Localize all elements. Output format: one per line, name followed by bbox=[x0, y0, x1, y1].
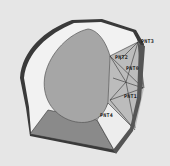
label-pnt0: PNT0 bbox=[126, 66, 139, 71]
label-pnt3: PNT3 bbox=[141, 39, 154, 44]
cad-part-drawing bbox=[0, 0, 170, 166]
diagram-canvas: PNT3 PNT2 PNT0 PNT1 PNT4 bbox=[0, 0, 170, 166]
label-pnt2: PNT2 bbox=[115, 55, 128, 60]
label-pnt4: PNT4 bbox=[100, 113, 113, 118]
label-pnt1: PNT1 bbox=[124, 94, 137, 99]
